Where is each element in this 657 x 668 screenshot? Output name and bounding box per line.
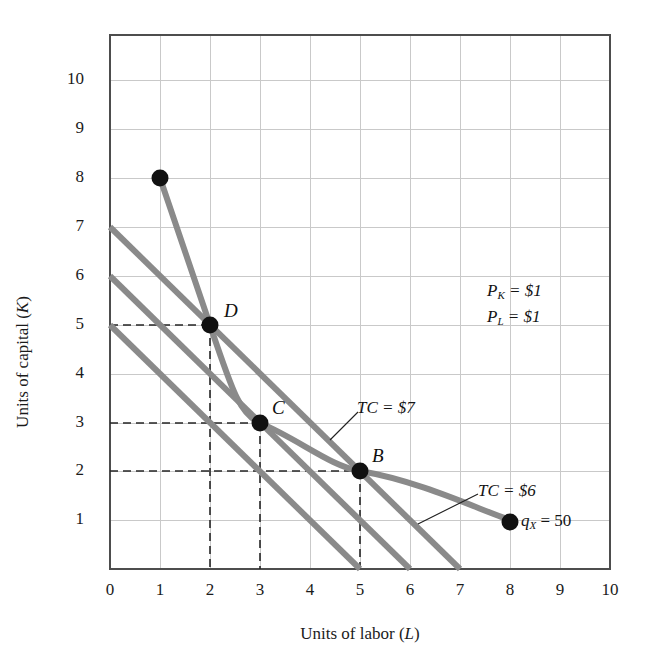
marker-b-5-2 — [352, 463, 369, 480]
y-tick-1: 1 — [58, 509, 84, 529]
annotation-tc7: TC = $7 — [357, 398, 415, 418]
y-tick-3: 3 — [58, 412, 84, 432]
x-axis-title: Units of labor (L) — [210, 624, 510, 644]
x-tick-5: 5 — [347, 580, 373, 600]
y-tick-4: 4 — [58, 363, 84, 383]
x-tick-10: 10 — [597, 580, 623, 600]
y-tick-5: 5 — [58, 314, 84, 334]
price-parameters-box: PK = $1 PL = $1 — [487, 280, 542, 332]
isoquant-symbol: q — [521, 511, 530, 530]
isocost-line-tc5 — [110, 325, 360, 569]
y-axis-title-variable: K — [13, 302, 32, 313]
pk-symbol: P — [487, 281, 497, 300]
pk-value: = $1 — [505, 281, 542, 300]
x-axis-title-text: Units of labor ( — [300, 624, 404, 643]
annotation-isoquant-qx50: qX = 50 — [521, 511, 571, 531]
y-tick-2: 2 — [58, 460, 84, 480]
isoquant-value: = 50 — [536, 511, 571, 530]
point-label-d: D — [224, 300, 238, 322]
y-tick-6: 6 — [58, 265, 84, 285]
marker-1-8 — [152, 170, 169, 187]
isoquant-isocost-figure: 10 9 8 7 6 5 4 3 2 1 0 1 2 3 4 5 6 7 8 9… — [0, 0, 657, 668]
x-tick-0: 0 — [97, 580, 123, 600]
pl-value: = $1 — [504, 307, 541, 326]
y-tick-9: 9 — [58, 118, 84, 138]
y-tick-10: 10 — [58, 69, 84, 89]
y-axis-title-text: Units of capital ( — [13, 313, 32, 428]
x-tick-3: 3 — [247, 580, 273, 600]
x-tick-2: 2 — [197, 580, 223, 600]
y-tick-8: 8 — [58, 167, 84, 187]
x-tick-8: 8 — [497, 580, 523, 600]
y-axis-title: Units of capital (K) — [13, 277, 33, 447]
marker-d-2-5 — [202, 317, 219, 334]
price-of-capital-line: PK = $1 — [487, 280, 542, 306]
pl-symbol: P — [487, 307, 497, 326]
leader-line-tc7 — [330, 412, 358, 440]
isoquant-curve-qx50 — [160, 178, 510, 520]
x-tick-6: 6 — [397, 580, 423, 600]
data-point-markers — [152, 170, 519, 531]
marker-c-3-3 — [252, 415, 269, 432]
x-axis-title-variable: L — [405, 624, 414, 643]
pk-subscript: K — [497, 289, 504, 301]
plot-canvas — [0, 0, 657, 668]
price-of-labor-line: PL = $1 — [487, 306, 542, 332]
marker-8-1 — [502, 514, 519, 531]
x-tick-7: 7 — [447, 580, 473, 600]
x-tick-4: 4 — [297, 580, 323, 600]
y-tick-7: 7 — [58, 216, 84, 236]
x-tick-9: 9 — [547, 580, 573, 600]
point-label-b: B — [372, 445, 384, 467]
annotation-tc6: TC = $6 — [478, 481, 536, 501]
x-tick-1: 1 — [147, 580, 173, 600]
point-label-c: C — [272, 397, 285, 419]
